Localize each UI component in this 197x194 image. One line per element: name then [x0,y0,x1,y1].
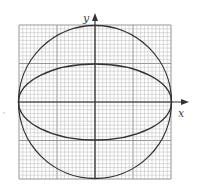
y-axis-label: y [82,12,90,25]
x-axis-arrow-icon [181,99,189,105]
y-axis-arrow-icon [92,13,98,21]
diagram: x y [0,0,197,194]
x-axis-label: x [178,107,185,120]
scan-artifact-dot [3,112,5,114]
